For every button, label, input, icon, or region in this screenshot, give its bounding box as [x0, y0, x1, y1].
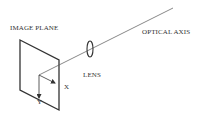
- x-axis-arrow: [39, 75, 55, 83]
- lens-shape: [87, 41, 93, 57]
- image-plane-label: IMAGE PLANE: [10, 25, 58, 32]
- diagram-canvas: [0, 0, 209, 120]
- optical-axis-label: OPTICAL AXIS: [142, 29, 190, 36]
- y-axis-label: Y: [37, 99, 42, 106]
- optical-axis-line: [39, 8, 173, 75]
- x-axis-label: X: [64, 84, 69, 91]
- lens-label: LENS: [83, 72, 101, 79]
